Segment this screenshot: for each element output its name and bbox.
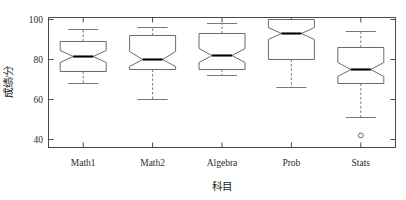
x-category-label: Math1 — [71, 158, 96, 168]
box-series — [60, 20, 384, 138]
y-axis-title: 成绩/分 — [2, 65, 14, 99]
x-category-label: Algebra — [207, 158, 238, 168]
y-tick-label: 60 — [34, 95, 44, 105]
box-group — [199, 24, 245, 76]
y-tick-labels: 406080100 — [29, 15, 44, 145]
x-category-label: Math2 — [140, 158, 165, 168]
boxplot-figure: 406080100 Math1Math2AlgebraProbStats 科目 … — [0, 0, 406, 200]
x-category-label: Stats — [352, 158, 371, 168]
box-group — [268, 20, 314, 88]
x-category-labels: Math1Math2AlgebraProbStats — [71, 158, 371, 168]
y-tick-label: 40 — [34, 135, 44, 145]
box-group — [60, 30, 106, 84]
box-group — [130, 28, 176, 100]
y-tick-label: 100 — [29, 15, 44, 25]
boxplot-svg: 406080100 Math1Math2AlgebraProbStats 科目 … — [0, 0, 406, 200]
notched-box — [199, 34, 245, 70]
x-axis-title: 科目 — [212, 180, 232, 192]
outlier-point — [358, 133, 363, 138]
notched-box — [130, 36, 176, 70]
notched-box — [338, 48, 384, 84]
x-category-label: Prob — [282, 158, 300, 168]
y-tick-label: 80 — [34, 55, 44, 65]
box-group — [338, 32, 384, 138]
notched-box — [268, 20, 314, 60]
